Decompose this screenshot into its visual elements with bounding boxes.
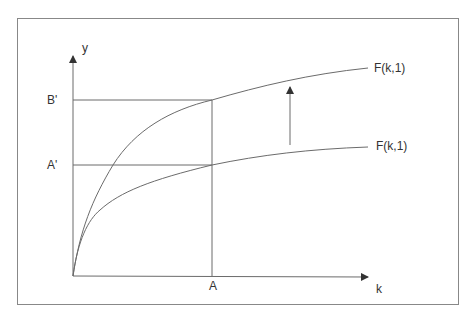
upper-production-curve bbox=[73, 68, 368, 276]
lower-production-curve bbox=[73, 147, 368, 276]
x-axis bbox=[73, 276, 368, 277]
production-function-diagram: y k B' A' A F(k,1) F(k,1) bbox=[0, 0, 475, 321]
upper-curve-label: F(k,1) bbox=[374, 61, 405, 75]
tick-label-a-prime: A' bbox=[47, 158, 57, 172]
lower-curve-label: F(k,1) bbox=[376, 139, 407, 153]
tick-label-b-prime: B' bbox=[47, 93, 57, 107]
tick-label-a: A bbox=[209, 279, 217, 293]
y-axis-label: y bbox=[82, 41, 88, 55]
x-axis-label: k bbox=[376, 282, 383, 296]
